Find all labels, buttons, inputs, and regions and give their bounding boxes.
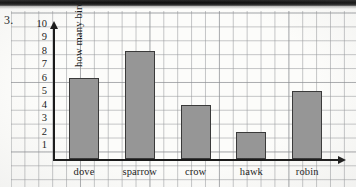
y-axis-title: how many birds bbox=[73, 0, 84, 67]
y-axis-line bbox=[53, 24, 55, 161]
x-axis-category-label: robin bbox=[267, 166, 347, 178]
bar bbox=[292, 91, 322, 159]
y-axis-tick-label: 2 bbox=[33, 127, 47, 137]
y-axis-tick-label: 3 bbox=[33, 113, 47, 123]
bar bbox=[181, 105, 211, 159]
scan-edge-shadow bbox=[0, 6, 356, 9]
x-axis-arrow-icon bbox=[338, 156, 346, 164]
bar bbox=[69, 78, 99, 159]
y-axis-tick-label: 6 bbox=[33, 73, 47, 83]
y-axis-tick-label: 4 bbox=[33, 100, 47, 110]
y-axis-tick-label: 7 bbox=[33, 59, 47, 69]
y-axis-arrow-icon bbox=[50, 21, 58, 29]
y-axis-tick-label: 1 bbox=[33, 140, 47, 150]
y-axis-tick-label: 9 bbox=[33, 32, 47, 42]
bar bbox=[125, 51, 155, 159]
y-axis-tick-label: 8 bbox=[33, 46, 47, 56]
worksheet-page: 3. 10987654321 how many birds dovesparro… bbox=[0, 0, 356, 187]
y-axis-tick-label: 10 bbox=[33, 19, 47, 29]
y-axis-tick-label: 5 bbox=[33, 86, 47, 96]
bar bbox=[236, 132, 266, 159]
x-axis-line bbox=[53, 159, 341, 161]
bar-chart: 10987654321 how many birds dovesparrowcr… bbox=[53, 20, 346, 161]
question-number: 3. bbox=[4, 13, 13, 28]
